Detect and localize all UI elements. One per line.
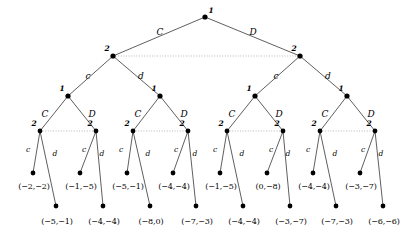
player-label-level2-3: 1: [338, 85, 343, 93]
game-tree-figure: 122111122222222CDcdcdCDCDCDCDcdcdcdcdcdc…: [0, 0, 418, 239]
terminal-node-upper-3[interactable]: [171, 171, 176, 176]
node-level1-player2-0[interactable]: [110, 53, 115, 58]
terminal-node-upper-1[interactable]: [78, 171, 83, 176]
player-label-level1-1: 2: [291, 45, 296, 53]
terminal-node-lower-0[interactable]: [54, 204, 59, 209]
edge-level3-0-c: [33, 131, 40, 173]
player-label-level2-2: 1: [246, 85, 251, 93]
player-label-level3-7: 2: [366, 120, 371, 128]
edge-label-level3-3: d: [100, 150, 105, 158]
terminal-node-lower-7[interactable]: [381, 204, 386, 209]
terminal-node-lower-2[interactable]: [148, 204, 153, 209]
edge-label-level3-5: d: [146, 150, 151, 158]
terminal-node-lower-3[interactable]: [194, 204, 199, 209]
payoff-lower-4: (−4,−4): [228, 218, 260, 226]
payoff-upper-0: (−2,−2): [18, 183, 50, 191]
edge-label-level2-0: C: [42, 110, 49, 119]
terminal-node-upper-6[interactable]: [311, 171, 316, 176]
edge-label-level3-0: c: [26, 146, 30, 154]
payoff-lower-7: (−6,−6): [368, 218, 400, 226]
terminal-node-lower-5[interactable]: [288, 204, 293, 209]
terminal-node-upper-4[interactable]: [218, 171, 223, 176]
payoff-lower-3: (−7,−3): [181, 218, 213, 226]
edge-label-level2-3: D: [180, 110, 187, 119]
nodes-group: [31, 14, 386, 208]
edge-label-level2-5: D: [275, 110, 282, 119]
node-level3-player2-7[interactable]: [373, 129, 378, 134]
edge-level3-2-d: [133, 131, 150, 206]
node-level3-player2-4[interactable]: [225, 129, 230, 134]
edge-label-level3-13: d: [333, 150, 338, 158]
edge-label-level3-6: c: [174, 146, 178, 154]
player-label-level3-2: 2: [124, 120, 129, 128]
player-label-root: 1: [208, 7, 213, 15]
edge-level3-7-d: [375, 131, 383, 206]
node-level3-player2-1[interactable]: [94, 129, 99, 134]
terminal-node-upper-7[interactable]: [358, 171, 363, 176]
payoff-upper-4: (−1,−5): [205, 183, 237, 191]
edge-level3-6-d: [320, 131, 336, 206]
edge-root-0: [113, 17, 205, 56]
payoff-lower-6: (−7,−3): [321, 218, 353, 226]
edge-level3-3-d: [188, 131, 196, 206]
player-label-level3-5: 2: [274, 120, 279, 128]
edge-label-level3-8: c: [213, 146, 217, 154]
node-level3-player2-2[interactable]: [131, 129, 136, 134]
terminal-node-upper-5[interactable]: [265, 171, 270, 176]
edge-level3-4-d: [227, 131, 243, 206]
player-label-level1-0: 2: [104, 45, 109, 53]
edge-label-level3-10: c: [269, 146, 273, 154]
edge-label-level3-7: d: [193, 150, 198, 158]
edge-level3-4-c: [220, 131, 227, 173]
node-root-player1[interactable]: [202, 14, 207, 19]
payoff-upper-7: (−3,−7): [345, 183, 377, 191]
edge-level3-5-d: [283, 131, 290, 206]
node-level1-player2-1[interactable]: [297, 53, 302, 58]
payoff-upper-2: (−5,−1): [112, 183, 144, 191]
terminal-node-lower-1[interactable]: [101, 204, 106, 209]
node-level3-player2-5[interactable]: [281, 129, 286, 134]
edge-label-level2-7: D: [367, 110, 374, 119]
payoff-lower-1: (−4,−4): [88, 218, 120, 226]
edge-label-level3-2: c: [82, 146, 86, 154]
player-label-level3-0: 2: [31, 120, 36, 128]
edges-group: [33, 17, 383, 206]
node-level3-player2-3[interactable]: [186, 129, 191, 134]
edge-label-level2-1: D: [88, 110, 95, 119]
edge-label-level3-9: d: [240, 150, 245, 158]
node-level2-player1-2[interactable]: [252, 93, 257, 98]
node-level2-player1-3[interactable]: [344, 93, 349, 98]
edge-label-level3-14: c: [361, 146, 365, 154]
tree-edges-svg: [0, 0, 418, 239]
terminal-node-upper-2[interactable]: [125, 171, 130, 176]
payoff-upper-5: (0,−8): [255, 183, 280, 191]
player-label-level3-4: 2: [218, 120, 223, 128]
payoff-upper-3: (−4,−4): [158, 183, 190, 191]
edge-level3-2-c: [127, 131, 133, 173]
edge-label-level3-4: c: [119, 146, 123, 154]
node-level3-player2-0[interactable]: [38, 129, 43, 134]
node-level2-player1-1[interactable]: [157, 93, 162, 98]
edge-label-level1-2: c: [273, 72, 278, 81]
payoff-upper-6: (−4,−4): [298, 183, 330, 191]
edge-level3-1-d: [96, 131, 103, 206]
node-level3-player2-6[interactable]: [318, 129, 323, 134]
payoff-lower-2: (−8,0): [138, 218, 163, 226]
terminal-node-upper-0[interactable]: [31, 171, 36, 176]
edge-label-level2-4: C: [229, 110, 236, 119]
edge-label-level1-0: c: [85, 72, 90, 81]
edge-label-root-0: C: [157, 28, 164, 37]
edge-root-1: [205, 17, 300, 56]
edge-label-level3-12: c: [306, 146, 310, 154]
edge-label-level1-3: d: [325, 72, 331, 81]
edge-label-level2-6: C: [322, 110, 329, 119]
edge-label-level2-2: C: [135, 110, 142, 119]
edge-level3-0-d: [40, 131, 56, 206]
player-label-level2-0: 1: [59, 85, 64, 93]
terminal-node-lower-6[interactable]: [334, 204, 339, 209]
terminal-node-lower-4[interactable]: [241, 204, 246, 209]
edge-label-level1-1: d: [138, 72, 144, 81]
node-level2-player1-0[interactable]: [65, 93, 70, 98]
player-label-level3-6: 2: [311, 120, 316, 128]
edge-label-level3-15: d: [379, 150, 384, 158]
